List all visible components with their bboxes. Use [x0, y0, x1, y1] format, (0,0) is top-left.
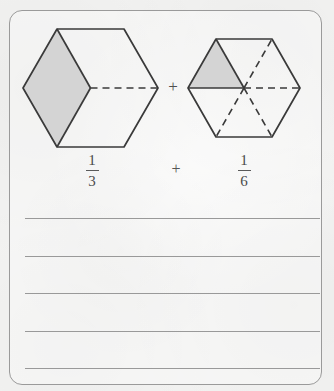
answer-line[interactable]	[25, 218, 320, 219]
answer-line[interactable]	[25, 368, 320, 369]
answer-line[interactable]	[25, 256, 320, 257]
answer-line[interactable]	[25, 293, 320, 294]
answer-lines-area	[0, 0, 334, 391]
answer-line[interactable]	[25, 331, 320, 332]
